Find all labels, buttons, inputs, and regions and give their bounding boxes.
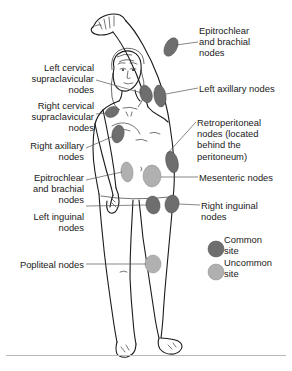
label-epitrochlear-and-brachial-nodes-right: Epitrochlear and brachial nodes [199,25,289,59]
leader-left-axillary [166,88,198,94]
lymph-node-diagram: .ol { fill:none; stroke:#1a1a1a; stroke-… [0,0,292,371]
label-popliteal-nodes: Popliteal nodes [6,259,84,270]
label-epitrochlear-and-brachial-nodes-left: Epitrochlear and brachial nodes [6,172,84,206]
leader-left-inguinal [86,205,147,206]
bottom-divider [6,355,286,356]
left-epitrochlear-node [161,35,181,58]
right-cervical-node [104,105,121,120]
label-right-axillary-nodes: Right axillary nodes [6,140,84,162]
uncommon-site-dot [208,264,224,280]
label-left-cervical-supraclavicular-nodes: Left cervical supraclavicular nodes [6,62,94,96]
leader-right-inguinal [179,204,200,205]
body-outline [91,14,182,357]
mesenteric-node [143,165,161,187]
label-left-inguinal-nodes: Left inguinal nodes [6,211,84,233]
leader-epitrochlear-right-side [176,42,198,45]
label-left-axillary-nodes: Left axillary nodes [199,83,291,94]
leader-epitrochlear-left-side [86,172,122,180]
retroperitoneal-node [164,150,181,174]
right-epitrochlear-node [120,161,134,182]
left-axillary-node [153,84,168,107]
leader-left-cervical [96,80,142,93]
right-axillary-node [110,124,125,144]
label-retroperitoneal-nodes: Retroperitoneal nodes (located behind th… [197,117,291,162]
label-mesenteric-nodes: Mesenteric nodes [199,172,291,183]
popliteal-node [145,255,161,273]
label-right-inguinal-nodes: Right inguinal nodes [201,200,291,222]
legend-label-common-site: Common site [224,234,290,256]
right-inguinal-node [164,194,181,214]
common-site-dot [208,241,224,257]
leader-lines [86,42,200,264]
label-right-cervical-supraclavicular-nodes: Right cervical supraclavicular nodes [6,100,94,134]
legend-label-uncommon-site: Uncommon site [224,257,292,279]
raised-hand [91,14,126,35]
